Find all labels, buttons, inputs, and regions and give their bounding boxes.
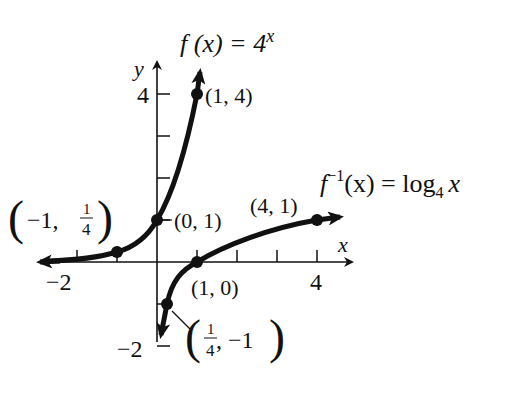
f-label: f (x) = 4 [180, 29, 266, 58]
x-axis-label: x [337, 232, 348, 257]
label-4-1: (4, 1) [250, 193, 298, 218]
label-neg1-quarter: ( −1, 1 4 ) [8, 191, 113, 245]
label-0-1: (0, 1) [174, 208, 222, 233]
svg-text:4: 4 [206, 341, 215, 360]
point-quarter-neg1 [161, 298, 173, 310]
tick-label-x4: 4 [310, 269, 322, 295]
svg-text:−1,: −1, [27, 207, 59, 233]
tick-label-y4: 4 [137, 82, 149, 108]
point-1-0 [191, 256, 203, 268]
point-1-4 [191, 88, 203, 100]
svg-text:1: 1 [207, 321, 215, 337]
log-function-label: f−1(x) = log4x [320, 167, 460, 201]
y-axis-label: y [132, 56, 144, 81]
svg-text:): ) [97, 191, 113, 245]
label-1-0: (1, 0) [191, 275, 239, 300]
svg-text:): ) [269, 310, 285, 364]
tick-label-yneg2: −2 [117, 336, 143, 362]
svg-text:4: 4 [82, 220, 91, 239]
label-quarter-neg1: ( 1 4 , −1 ) [185, 310, 285, 364]
tick-label-xneg2: −2 [46, 269, 72, 295]
svg-text:f (x) = 4x: f (x) = 4x [180, 26, 274, 58]
svg-text:(: ( [185, 310, 201, 364]
label-1-4: (1, 4) [205, 83, 253, 108]
svg-text:(: ( [8, 191, 24, 245]
point-4-1 [311, 214, 323, 226]
svg-text:1: 1 [83, 201, 91, 217]
point-neg1-quarter [111, 246, 123, 258]
svg-text:, −1: , −1 [216, 327, 254, 353]
graph: f (x) = 4x y x 4 −2 −2 4 (1, 4) (0, 1) (… [0, 0, 511, 396]
